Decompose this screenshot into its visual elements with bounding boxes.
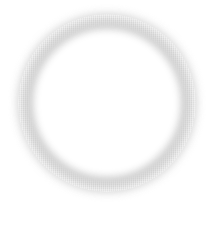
ring-inner-hole — [38, 34, 176, 172]
graphic-description: soft blurred gray circular ring on white… — [0, 0, 1, 1]
ring-graphic — [18, 14, 196, 192]
canvas: soft blurred gray circular ring on white… — [0, 0, 215, 236]
